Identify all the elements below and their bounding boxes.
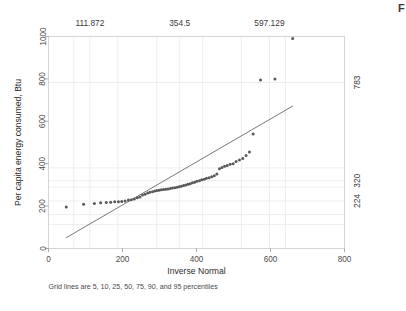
right-axis-labels: 783320224 [353, 75, 363, 208]
data-point [124, 200, 127, 203]
y-tick-label: 800 [39, 72, 48, 86]
data-point [133, 197, 136, 200]
data-point [138, 195, 141, 198]
data-point [148, 191, 151, 194]
data-point [93, 202, 96, 205]
right-axis-label: 783 [353, 75, 363, 89]
data-point [273, 77, 276, 80]
x-tick-label: 400 [190, 255, 204, 264]
data-point [223, 165, 226, 168]
data-point [241, 157, 244, 160]
x-axis-ticks: 0200400600800 [46, 249, 352, 264]
figure-container: 0200400600800 02004006008001000 111.8723… [0, 0, 406, 311]
y-axis-ticks: 02004006008001000 [39, 27, 49, 251]
y-tick-label: 1000 [39, 27, 48, 46]
data-point [208, 176, 211, 179]
x-tick-label: 200 [116, 255, 130, 264]
data-point [99, 201, 102, 204]
data-point [218, 167, 221, 170]
x-tick-label: 800 [338, 255, 352, 264]
data-point [205, 177, 208, 180]
y-axis-title: Per capita energy consumed, Btu [13, 79, 23, 206]
data-point [141, 194, 144, 197]
y-tick-label: 200 [39, 199, 48, 213]
plot-background [49, 37, 345, 249]
data-point [245, 154, 248, 157]
data-point [226, 164, 229, 167]
top-axis-labels: 111.872354.5597.129 [75, 18, 285, 28]
data-point [213, 174, 216, 177]
data-point [248, 151, 251, 154]
data-point [238, 158, 241, 161]
top-axis-label: 111.872 [75, 18, 104, 28]
data-point [291, 37, 294, 40]
y-tick-label: 0 [39, 246, 48, 251]
x-tick-label: 0 [46, 255, 51, 264]
data-point [65, 205, 68, 208]
data-point [235, 160, 238, 163]
data-point [215, 172, 218, 175]
y-tick-label: 400 [39, 156, 48, 170]
chart-note: Grid lines are 5, 10, 25, 50, 75, 90, an… [49, 283, 219, 291]
data-point [130, 198, 133, 201]
x-axis-title: Inverse Normal [167, 266, 225, 276]
data-point [120, 200, 123, 203]
data-point [210, 175, 213, 178]
data-point [117, 200, 120, 203]
data-point [259, 78, 262, 81]
data-point [252, 133, 255, 136]
data-point [82, 203, 85, 206]
data-point [144, 193, 147, 196]
data-point [232, 162, 235, 165]
data-point [221, 166, 224, 169]
right-axis-label: 224 [353, 194, 363, 208]
x-tick-label: 600 [264, 255, 278, 264]
y-tick-label: 600 [39, 114, 48, 128]
data-point [105, 201, 108, 204]
top-axis-label: 354.5 [169, 18, 190, 28]
data-point [113, 200, 116, 203]
data-point [195, 180, 198, 183]
data-point [200, 178, 203, 181]
data-point [136, 196, 139, 199]
data-point [109, 201, 112, 204]
data-point [127, 198, 130, 201]
corner-letter-mark: F [398, 2, 406, 16]
top-axis-label: 597.129 [254, 18, 285, 28]
quantile-normal-plot: 0200400600800 02004006008001000 111.8723… [0, 0, 406, 311]
right-axis-label: 320 [353, 173, 363, 187]
data-point [229, 163, 232, 166]
